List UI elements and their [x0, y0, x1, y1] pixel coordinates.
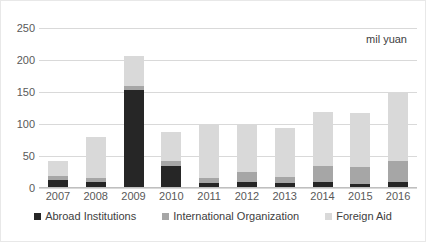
bar-segment[interactable]	[161, 132, 181, 161]
bar-segment[interactable]	[86, 137, 106, 178]
y-tick-label: 250	[17, 22, 35, 34]
bar-stack[interactable]	[199, 125, 219, 188]
x-tick-label: 2011	[197, 190, 221, 202]
x-tick-label: 2016	[386, 190, 410, 202]
legend-label: Abroad Institutions	[45, 210, 136, 222]
x-tick-label: 2013	[272, 190, 296, 202]
bar-segment[interactable]	[275, 128, 295, 177]
x-tick-label: 2007	[46, 190, 70, 202]
bar-segment[interactable]	[199, 125, 219, 178]
y-tick-label: 150	[17, 86, 35, 98]
bar-stack[interactable]	[237, 125, 257, 188]
bar-stack[interactable]	[350, 113, 370, 188]
bar-segment[interactable]	[388, 93, 408, 161]
gridline	[39, 188, 417, 189]
bar-segment[interactable]	[350, 113, 370, 167]
x-tick-label: 2012	[235, 190, 259, 202]
legend-swatch-icon	[34, 213, 41, 220]
legend-item[interactable]: Foreign Aid	[325, 210, 392, 222]
bar-segment[interactable]	[350, 167, 370, 184]
x-tick-label: 2010	[159, 190, 183, 202]
x-tick-label: 2009	[121, 190, 145, 202]
x-tick-label: 2014	[310, 190, 334, 202]
bar-stack[interactable]	[275, 128, 295, 188]
x-axis-line	[39, 187, 417, 188]
legend-item[interactable]: International Organization	[162, 210, 299, 222]
legend-swatch-icon	[325, 213, 332, 220]
bar-segment[interactable]	[124, 90, 144, 188]
chart-legend: Abroad InstitutionsInternational Organiz…	[1, 210, 425, 222]
bar-stack[interactable]	[48, 161, 68, 188]
bar-segment[interactable]	[237, 172, 257, 182]
legend-swatch-icon	[162, 213, 169, 220]
legend-item[interactable]: Abroad Institutions	[34, 210, 136, 222]
y-tick-label: 200	[17, 54, 35, 66]
bar-segment[interactable]	[161, 166, 181, 188]
x-tick-label: 2015	[348, 190, 372, 202]
bar-stack[interactable]	[313, 112, 333, 188]
bar-segment[interactable]	[313, 112, 333, 166]
legend-label: Foreign Aid	[336, 210, 392, 222]
plot-area	[39, 28, 417, 188]
bar-segment[interactable]	[48, 161, 68, 176]
y-tick-label: 50	[23, 150, 35, 162]
bar-series-group	[39, 28, 417, 188]
bar-stack[interactable]	[86, 137, 106, 188]
bar-stack[interactable]	[124, 56, 144, 188]
y-tick-label: 0	[29, 182, 35, 194]
legend-label: International Organization	[173, 210, 299, 222]
bar-segment[interactable]	[313, 166, 333, 181]
y-tick-label: 100	[17, 118, 35, 130]
x-axis: 2007200820092010201120122013201420152016	[39, 190, 417, 206]
bar-segment[interactable]	[237, 125, 257, 172]
x-tick-label: 2008	[83, 190, 107, 202]
bar-stack[interactable]	[388, 93, 408, 188]
chart-container: mil yuan 050100150200250 200720082009201…	[0, 0, 426, 242]
bar-stack[interactable]	[161, 132, 181, 188]
y-axis: 050100150200250	[1, 28, 39, 188]
bar-segment[interactable]	[124, 56, 144, 86]
bar-segment[interactable]	[388, 161, 408, 181]
